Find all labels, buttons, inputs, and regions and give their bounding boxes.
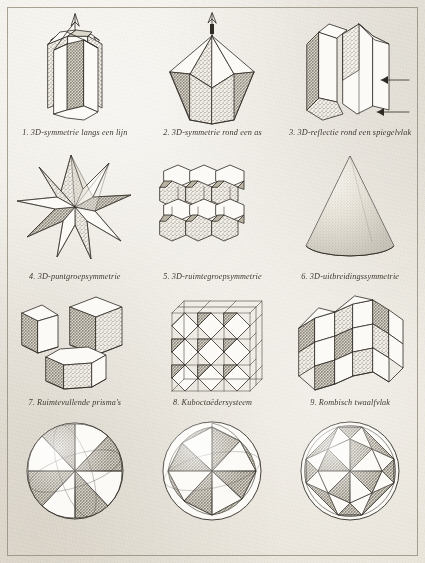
figure-8-art bbox=[144, 290, 282, 398]
figure-6-caption: 6. 3D-uitbreidingssymmetrie bbox=[281, 272, 419, 281]
sphere-octahedral-pinwheel-pattern bbox=[156, 415, 268, 527]
figure-4-art bbox=[6, 146, 144, 272]
sphere-icosahedral-pinwheel-pattern bbox=[294, 415, 406, 527]
cone-icon bbox=[290, 150, 410, 268]
figure-1-art bbox=[6, 10, 144, 128]
figure-2-caption: 2. 3D-symmetrie rond een as bbox=[144, 128, 282, 137]
figure-4-caption: 4. 3D-puntgroepsymmetrie bbox=[6, 272, 144, 281]
figure-8-caption: 8. Kuboctaëdersysteem bbox=[144, 398, 282, 407]
figure-3-art bbox=[281, 10, 419, 128]
sphere-2-art bbox=[144, 416, 282, 526]
figure-1-caption: 1. 3D-symmetrie langs een lijn bbox=[6, 128, 144, 137]
truncated-octahedra-lattice-icon bbox=[148, 153, 276, 265]
prism-line-symmetry-icon bbox=[10, 10, 140, 128]
rhombic-dodecahedra-icon bbox=[285, 290, 415, 398]
figure-7-caption: 7. Ruimtevullende prisma's bbox=[6, 398, 144, 407]
figure-6-art bbox=[281, 146, 419, 272]
illustration-plate: 1. 3D-symmetrie langs een lijn 2. 3D-sym… bbox=[0, 0, 425, 563]
figure-9-caption: 9. Rombisch twaalfvlak bbox=[281, 398, 419, 407]
figure-9-art bbox=[281, 290, 419, 398]
sphere-tetrahedral-pattern bbox=[20, 416, 130, 526]
figure-5-caption: 5. 3D-ruimtegroepsymmetrie bbox=[144, 272, 282, 281]
sphere-3-art bbox=[281, 416, 419, 526]
figure-7-art bbox=[6, 290, 144, 398]
crystal-mirror-reflection-icon bbox=[285, 10, 415, 128]
figure-3-caption: 3. 3D-reflectie rond een spiegelvlak bbox=[281, 128, 419, 137]
figure-5-art bbox=[144, 146, 282, 272]
figure-2-art bbox=[144, 10, 282, 128]
cuboctahedron-lattice-icon bbox=[146, 289, 278, 399]
space-filling-prisms-icon bbox=[10, 291, 140, 397]
stellated-polyhedron-icon bbox=[9, 147, 141, 271]
figure-grid: 1. 3D-symmetrie langs een lijn 2. 3D-sym… bbox=[0, 0, 425, 563]
bipyramid-axis-symmetry-icon bbox=[150, 10, 275, 128]
sphere-1-art bbox=[6, 416, 144, 526]
